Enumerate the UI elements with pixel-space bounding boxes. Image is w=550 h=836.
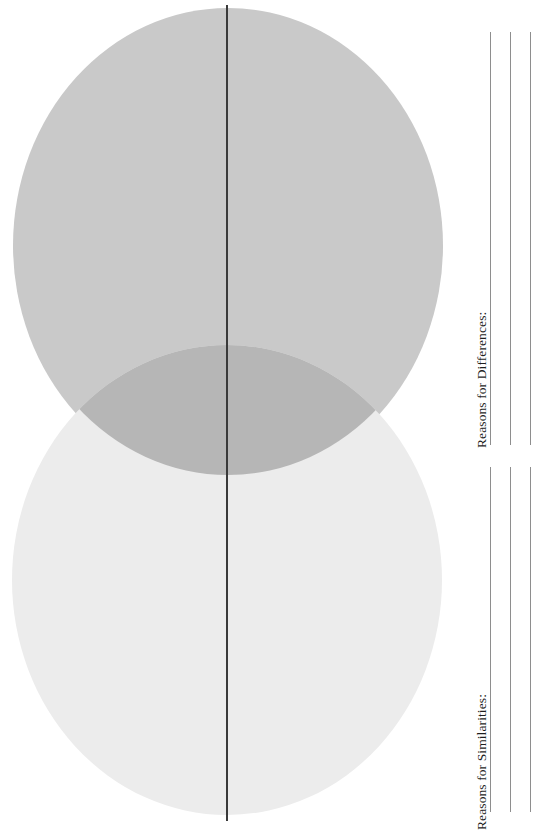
writing-line[interactable]	[510, 32, 511, 445]
writing-panel: Reasons for Differences: Reasons for Sim…	[460, 0, 550, 836]
label-reasons-for-differences: Reasons for Differences:	[474, 312, 490, 448]
venn-overlap-shape	[13, 345, 443, 475]
writing-line[interactable]	[510, 467, 511, 812]
writing-line[interactable]	[490, 32, 491, 445]
section-reasons-for-differences: Reasons for Differences:	[460, 0, 550, 458]
label-reasons-for-similarities: Reasons for Similarities:	[474, 694, 490, 830]
writing-line[interactable]	[530, 32, 531, 445]
venn-diagram	[0, 0, 460, 836]
center-divider-line	[226, 5, 228, 821]
venn-overlap-region[interactable]	[13, 345, 443, 483]
section-reasons-for-similarities: Reasons for Similarities:	[460, 460, 550, 836]
writing-line[interactable]	[490, 467, 491, 812]
writing-line[interactable]	[530, 467, 531, 812]
worksheet-page: Reasons for Differences: Reasons for Sim…	[0, 0, 550, 836]
